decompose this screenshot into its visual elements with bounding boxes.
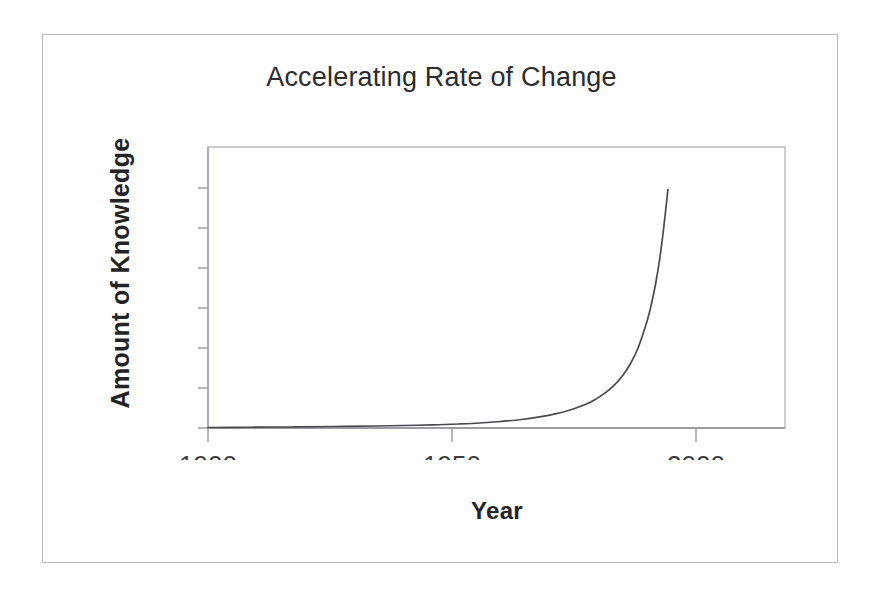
plot-frame [208,147,785,428]
exponential-curve [208,190,668,428]
y-axis-label: Amount of Knowledge [106,138,135,409]
x-tick-label-2000: 2000 [667,450,725,460]
chart-title: Accelerating Rate of Change [0,62,883,93]
plot-area: 1900 1950 2000 [150,120,830,460]
x-tick-label-1950: 1950 [423,450,481,460]
y-axis-label-container: Amount of Knowledge [92,108,148,438]
x-tick-label-1900: 1900 [179,450,237,460]
y-axis-ticks [198,188,208,428]
x-axis-ticks [208,428,696,442]
chart-svg: 1900 1950 2000 [150,120,830,460]
x-axis-label: Year [208,497,786,525]
chart-screenshot: Accelerating Rate of Change Amount of Kn… [0,0,883,600]
